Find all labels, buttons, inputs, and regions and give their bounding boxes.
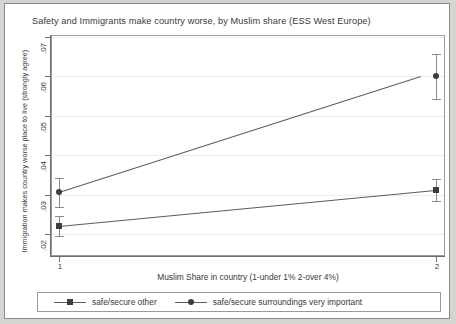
chart-figure: Safety and Immigrants make country worse… [4, 3, 450, 319]
legend-entry-surroundings[interactable]: safe/secure surroundings very important [175, 297, 362, 307]
data-point-other-1 [56, 223, 62, 229]
legend-label-other: safe/secure other [92, 297, 157, 307]
error-bar-cap [55, 207, 64, 208]
error-bar-cap [55, 178, 64, 179]
gridline-07 [52, 37, 444, 38]
y-tick-label: .07 [39, 38, 48, 60]
error-bar-cap [432, 54, 441, 55]
gridline-05 [52, 116, 444, 117]
gridline-02 [52, 234, 444, 235]
y-tick-label: .02 [39, 235, 48, 257]
y-tick-label: .03 [39, 196, 48, 218]
x-tick-label: 2 [427, 262, 447, 271]
legend-marker-circle-icon [175, 298, 207, 306]
gridline-04 [52, 155, 444, 156]
plot-area [51, 35, 445, 256]
error-bar-cap [432, 201, 441, 202]
data-point-other-2 [433, 187, 439, 193]
error-bar-cap [55, 216, 64, 217]
legend-label-surroundings: safe/secure surroundings very important [213, 297, 362, 307]
error-bar-cap [432, 179, 441, 180]
x-axis-line [50, 256, 445, 257]
chart-legend: safe/secure other safe/secure surroundin… [37, 292, 441, 312]
error-bar-cap [55, 236, 64, 237]
gridline-06 [52, 76, 444, 77]
data-point-surroundings-2 [433, 73, 439, 79]
legend-entry-other[interactable]: safe/secure other [54, 297, 157, 307]
data-point-surroundings-1 [56, 189, 62, 195]
y-tick-label: .06 [39, 77, 48, 99]
y-axis-line [50, 35, 51, 257]
legend-marker-square-icon [54, 298, 86, 306]
x-axis-title: Muslim Share in country (1-under 1% 2-ov… [51, 272, 445, 282]
chart-title: Safety and Immigrants make country worse… [32, 16, 371, 26]
error-bar-cap [432, 99, 441, 100]
y-tick-label: .04 [39, 156, 48, 178]
y-tick-label: .05 [39, 117, 48, 139]
y-axis-title: Immigration makes country worse place to… [20, 57, 29, 253]
x-tick-label: 1 [50, 262, 70, 271]
